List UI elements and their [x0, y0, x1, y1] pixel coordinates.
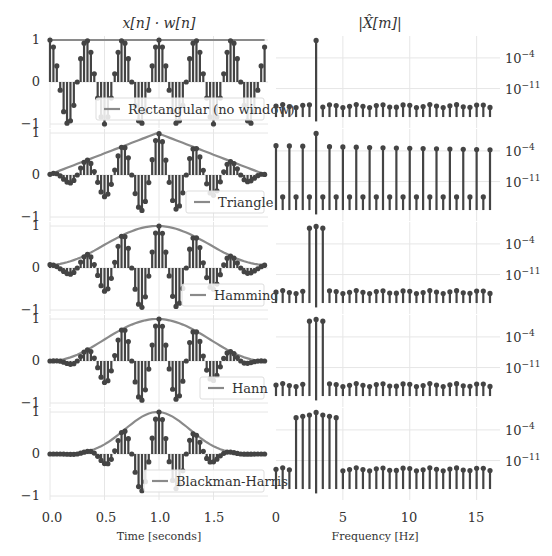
time-xticks: 0.0 0.5 1.0 1.5 [42, 510, 225, 525]
time-ytick: 0 [32, 446, 40, 461]
legend: Hamming [182, 284, 279, 306]
legend-label: Hann [232, 381, 268, 396]
freq-ytick: 10−4 [505, 328, 535, 345]
legend-label: Hamming [214, 288, 279, 303]
freq-xticks: 0 5 10 15 [272, 510, 484, 525]
freq-ytick: 10−4 [505, 49, 535, 66]
panel-hann: 10−1Hann10−410−11 [21, 311, 541, 410]
time-ytick: 1 [32, 32, 40, 47]
time-ytick: 0 [32, 260, 40, 275]
freq-ytick: 10−11 [505, 359, 541, 376]
time-ytick: −1 [21, 488, 40, 503]
freq-ytick: 10−11 [505, 266, 541, 283]
time-xtick: 1.0 [150, 510, 171, 525]
legend: Rectangular (no window) [96, 98, 294, 120]
freq-ytick: 10−4 [505, 235, 535, 252]
panel-triangle: 10−1Triangle10−410−11 [21, 125, 541, 224]
time-xtick: 0.0 [42, 510, 63, 525]
legend-label: Blackman-Harris [176, 474, 288, 489]
freq-ytick: 10−11 [505, 452, 541, 469]
freq-xtick: 5 [339, 510, 347, 525]
time-ytick: 0 [32, 167, 40, 182]
legend: Triangle [186, 191, 274, 213]
freq-xlabel: Frequency [Hz] [332, 530, 419, 543]
time-ytick: 1 [32, 311, 40, 326]
panel-hamming: 10−1Hamming10−410−11 [21, 218, 541, 317]
time-xtick: 0.5 [96, 510, 117, 525]
legend-label: Rectangular (no window) [128, 102, 294, 117]
legend-label: Triangle [218, 195, 274, 210]
time-ytick: 1 [32, 218, 40, 233]
freq-xtick: 10 [401, 510, 418, 525]
freq-xtick: 15 [468, 510, 485, 525]
panels: 10−1Rectangular (no window)10−410−1110−1… [21, 32, 541, 503]
panel-blackman-harris: 10−1Blackman-Harris10−410−11 [21, 404, 541, 503]
freq-ytick: 10−4 [505, 142, 535, 159]
time-ytick: 0 [32, 74, 40, 89]
freq-ytick: 10−4 [505, 421, 535, 438]
freq-column-title: |X̂[m]| [358, 14, 402, 32]
panel-rectangular-no-window-: 10−1Rectangular (no window)10−410−11 [21, 32, 541, 131]
freq-ytick: 10−11 [505, 80, 541, 97]
time-ytick: 1 [32, 125, 40, 140]
time-column-title: x[n] · w[n] [122, 15, 196, 31]
time-xlabel: Time [seconds] [117, 530, 202, 543]
figure: x[n] · w[n] |X̂[m]| 10−1Rectangular (no … [0, 0, 552, 556]
time-ytick: 0 [32, 353, 40, 368]
freq-xtick: 0 [272, 510, 280, 525]
time-ytick: 1 [32, 404, 40, 419]
legend: Hann [200, 377, 268, 399]
time-xtick: 1.5 [204, 510, 225, 525]
legend: Blackman-Harris [144, 470, 288, 492]
freq-ytick: 10−11 [505, 173, 541, 190]
